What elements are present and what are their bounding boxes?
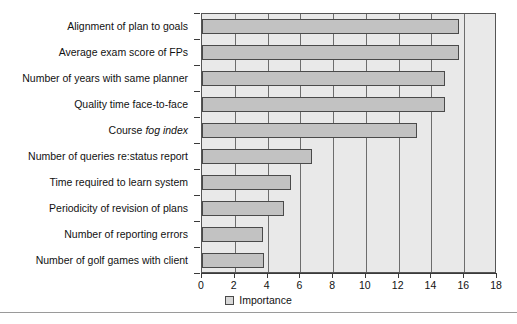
x-tick-label: 4 [264, 279, 270, 291]
bar-row [202, 14, 495, 40]
legend-swatch-importance [225, 296, 234, 305]
bar-row [202, 118, 495, 144]
category-tick [194, 169, 200, 170]
category-label-emphasis: fog index [145, 124, 188, 136]
x-tick-label: 6 [296, 279, 302, 291]
bar-row [202, 92, 495, 118]
x-tick [332, 273, 333, 278]
plot-area [201, 13, 496, 273]
bar [202, 71, 445, 86]
category-label: Periodicity of revision of plans [0, 202, 188, 214]
bar-row [202, 170, 495, 196]
category-tick [194, 143, 200, 144]
bar [202, 149, 312, 164]
chart-legend: Importance [0, 294, 517, 306]
x-tick [299, 273, 300, 278]
x-tick [201, 273, 202, 278]
x-tick-label: 12 [392, 279, 404, 291]
x-tick [234, 273, 235, 278]
category-tick [194, 91, 200, 92]
category-label: Number of queries re:status report [0, 150, 188, 162]
x-tick-label: 8 [329, 279, 335, 291]
bar [202, 97, 445, 112]
category-label-column: Alignment of plan to goalsAverage exam s… [0, 13, 194, 273]
category-tick [194, 13, 200, 14]
category-label: Quality time face-to-face [0, 98, 188, 110]
bar [202, 45, 459, 60]
x-tick [365, 273, 366, 278]
x-axis-line [201, 273, 496, 274]
x-tick [463, 273, 464, 278]
bars-layer [202, 14, 495, 272]
bar-row [202, 196, 495, 222]
x-tick-label: 14 [425, 279, 437, 291]
bar-row [202, 40, 495, 66]
x-tick-label: 0 [198, 279, 204, 291]
category-tick [194, 273, 200, 274]
x-tick-label: 2 [231, 279, 237, 291]
bar-row [202, 222, 495, 248]
bar [202, 227, 263, 242]
x-tick-label: 16 [457, 279, 469, 291]
x-tick-label: 18 [490, 279, 502, 291]
footer-divider [0, 312, 517, 313]
x-tick-label: 10 [359, 279, 371, 291]
legend-label-importance: Importance [239, 294, 292, 306]
bar [202, 19, 459, 34]
bar-row [202, 66, 495, 92]
category-tick [194, 65, 200, 66]
x-tick [496, 273, 497, 278]
category-label: Number of golf games with client [0, 254, 188, 266]
category-tick [194, 247, 200, 248]
category-label: Alignment of plan to goals [0, 20, 188, 32]
bar [202, 201, 284, 216]
category-tick [194, 39, 200, 40]
category-label: Number of years with same planner [0, 72, 188, 84]
bar-chart: Alignment of plan to goalsAverage exam s… [0, 0, 517, 324]
x-tick [430, 273, 431, 278]
bar-row [202, 248, 495, 274]
x-tick [398, 273, 399, 278]
bar [202, 123, 417, 138]
category-tick [194, 117, 200, 118]
bar-row [202, 144, 495, 170]
bar [202, 175, 291, 190]
category-label: Average exam score of FPs [0, 46, 188, 58]
bar [202, 253, 264, 268]
category-label: Time required to learn system [0, 176, 188, 188]
x-tick [267, 273, 268, 278]
category-tick [194, 195, 200, 196]
category-label: Course fog index [0, 124, 188, 136]
category-tick [194, 221, 200, 222]
category-label: Number of reporting errors [0, 228, 188, 240]
